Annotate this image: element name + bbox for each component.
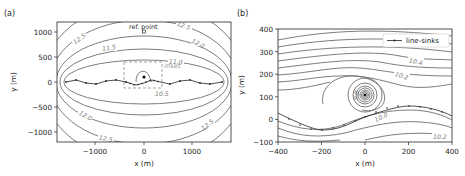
svg-text:400: 400 — [445, 147, 459, 156]
svg-text:500: 500 — [38, 53, 52, 62]
svg-text:−400: −400 — [268, 147, 288, 156]
ref-point-label: ref. point — [129, 23, 158, 31]
svg-text:−200: −200 — [312, 147, 332, 156]
svg-text:300: 300 — [259, 48, 273, 57]
svg-text:−1000: −1000 — [28, 128, 53, 137]
svg-text:12.0: 12.0 — [78, 109, 94, 122]
figure: (a) — [0, 0, 465, 176]
panel-b-xlabel: x (m) — [355, 159, 375, 168]
svg-text:10.5: 10.5 — [155, 90, 169, 97]
panel-b-ylabel: y (m) — [237, 75, 246, 95]
svg-text:10.2: 10.2 — [433, 133, 447, 140]
legend: line-sinks — [383, 34, 449, 47]
well-marker-a — [142, 75, 145, 78]
panel-a-ylabel: y (m) — [9, 72, 18, 92]
svg-text:0: 0 — [47, 78, 52, 87]
panel-a: (a) — [4, 0, 256, 176]
panel-b: (b) — [237, 9, 459, 168]
line-sinks-b — [278, 106, 452, 130]
svg-text:1000: 1000 — [183, 147, 202, 156]
svg-text:200: 200 — [402, 147, 416, 156]
panel-a-label: (a) — [4, 9, 15, 18]
svg-text:0: 0 — [142, 147, 147, 156]
svg-text:−1000: −1000 — [83, 147, 108, 156]
svg-text:200: 200 — [259, 70, 273, 79]
svg-text:10.0: 10.0 — [373, 111, 389, 123]
panel-b-label: (b) — [237, 9, 248, 18]
well-marker-b — [364, 94, 367, 97]
svg-text:12.5: 12.5 — [200, 117, 215, 131]
panel-a-contour-labels: 12.5 11.5 12.5 12.0 11.0 10.5 12.0 12.5 … — [70, 20, 215, 144]
svg-text:−100: −100 — [253, 138, 273, 147]
legend-line-sinks: line-sinks — [406, 37, 439, 45]
line-sinks-a — [66, 80, 222, 85]
svg-text:0: 0 — [268, 115, 273, 124]
svg-text:0: 0 — [363, 147, 368, 156]
inset-label: inset — [164, 62, 181, 70]
svg-text:400: 400 — [259, 25, 273, 34]
svg-text:1000: 1000 — [34, 28, 53, 37]
panel-a-xlabel: x (m) — [134, 159, 154, 168]
svg-text:−500: −500 — [32, 103, 52, 112]
svg-text:100: 100 — [259, 93, 273, 102]
panel-b-contours — [278, 31, 452, 141]
